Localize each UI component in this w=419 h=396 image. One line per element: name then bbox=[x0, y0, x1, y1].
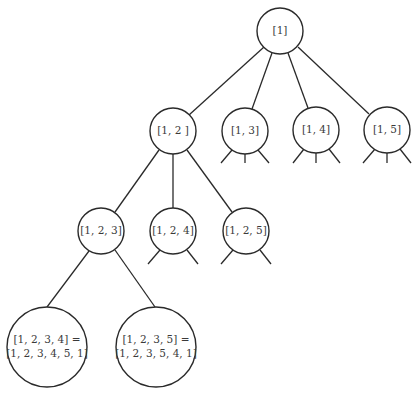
stub bbox=[400, 149, 411, 163]
node-label: [1, 2, 3] bbox=[80, 224, 122, 236]
edge-1-15 bbox=[298, 47, 369, 114]
node-1-2-3-5: [1, 2, 3, 5] = [1, 2, 3, 5, 4, 1] bbox=[115, 307, 197, 387]
stub bbox=[187, 250, 198, 264]
node-label: [1] bbox=[273, 24, 288, 36]
node-label-line1: [1, 2, 3, 5] = bbox=[122, 333, 189, 345]
node-label: [1, 2, 5] bbox=[225, 224, 267, 236]
node-label: [1, 5] bbox=[373, 123, 401, 135]
edge-123-1235 bbox=[115, 250, 155, 307]
node-label: [1, 2, 4] bbox=[152, 224, 194, 236]
node-1-3: [1, 3] bbox=[222, 108, 268, 154]
node-label-line1: [1, 2, 3, 4] = bbox=[13, 333, 80, 345]
node-label-line2: [1, 2, 3, 4, 5, 1] bbox=[6, 347, 88, 359]
stub bbox=[148, 250, 160, 264]
node-label: [1, 3] bbox=[231, 124, 259, 136]
stub bbox=[293, 149, 304, 163]
edge-1-14 bbox=[288, 53, 308, 108]
node-1: [1] bbox=[257, 8, 303, 54]
node-1-2-3-4: [1, 2, 3, 4] = [1, 2, 3, 4, 5, 1] bbox=[6, 307, 88, 387]
node-1-5: [1, 5] bbox=[364, 107, 410, 153]
stub bbox=[221, 250, 233, 264]
node-1-2: [1, 2 ] bbox=[150, 108, 196, 154]
stub bbox=[260, 250, 271, 264]
node-1-2-5: [1, 2, 5] bbox=[223, 208, 269, 254]
edge-123-1234 bbox=[47, 251, 89, 307]
node-label: [1, 4] bbox=[302, 123, 330, 135]
edge-1-13 bbox=[252, 53, 272, 109]
stub bbox=[363, 149, 375, 163]
tree-edges bbox=[47, 47, 369, 307]
edge-12-125 bbox=[187, 150, 232, 212]
node-label: [1, 2 ] bbox=[157, 124, 189, 136]
edge-1-12 bbox=[189, 47, 264, 115]
search-tree-diagram: [1] [1, 2 ] [1, 3] [1, 4] [1, 5] [1, 2, … bbox=[0, 0, 419, 396]
node-label-line2: [1, 2, 3, 5, 4, 1] bbox=[115, 347, 197, 359]
stub bbox=[221, 150, 232, 163]
edge-12-123 bbox=[115, 150, 159, 212]
node-1-2-3: [1, 2, 3] bbox=[78, 208, 124, 254]
node-1-4: [1, 4] bbox=[293, 107, 339, 153]
node-1-2-4: [1, 2, 4] bbox=[150, 208, 196, 254]
stub bbox=[329, 149, 340, 163]
stub bbox=[258, 150, 269, 163]
